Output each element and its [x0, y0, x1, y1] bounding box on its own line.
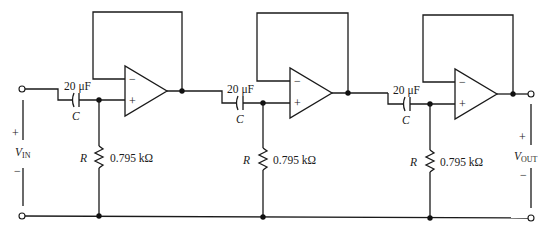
stage-2: 20 μF C R 0.795 kΩ − +: [218, 13, 388, 220]
capacitor-1-value: 20 μF: [64, 80, 91, 93]
resistor-3-icon: [426, 150, 434, 172]
input-terminal-bottom: [19, 213, 25, 219]
resistor-1-value: 0.795 kΩ: [110, 152, 153, 164]
output-terminal-top: [528, 91, 534, 97]
resistor-1-symbol: R: [79, 152, 87, 164]
input-minus-sign: −: [14, 164, 21, 178]
resistor-1-icon: [95, 146, 103, 168]
capacitor-2-value: 20 μF: [227, 83, 254, 96]
svg-text:−: −: [294, 74, 301, 88]
capacitor-3-icon: [404, 97, 411, 111]
svg-text:+: +: [129, 94, 136, 108]
input-plus-sign: +: [12, 126, 19, 140]
capacitor-3-symbol: C: [402, 114, 410, 126]
stage-3: 20 μF C R 0.795 kΩ − +: [388, 15, 528, 221]
input-voltage-label: VIN: [15, 146, 31, 160]
svg-text:+: +: [294, 96, 301, 110]
capacitor-1-symbol: C: [72, 110, 80, 122]
resistor-3-value: 0.795 kΩ: [440, 156, 483, 168]
output-minus-sign: −: [520, 168, 527, 182]
circuit-diagram: + VIN − 20 μF C R 0.795 kΩ − + 20 μF C: [0, 0, 550, 233]
capacitor-3-value: 20 μF: [393, 84, 420, 97]
output-plus-sign: +: [519, 130, 526, 144]
svg-text:+: +: [459, 97, 466, 111]
stage-1: 20 μF C R 0.795 kΩ − +: [25, 12, 218, 219]
resistor-2-symbol: R: [242, 154, 250, 166]
capacitor-2-symbol: C: [236, 113, 244, 125]
svg-text:−: −: [129, 72, 136, 86]
capacitor-1-icon: [73, 93, 80, 107]
resistor-2-value: 0.795 kΩ: [273, 154, 316, 166]
input-terminal-top: [19, 86, 25, 92]
capacitor-2-icon: [237, 96, 244, 110]
output-voltage-label: VOUT: [514, 150, 538, 164]
svg-text:−: −: [459, 75, 466, 89]
resistor-2-icon: [259, 148, 267, 170]
output-terminal-bottom: [528, 215, 534, 221]
resistor-3-symbol: R: [409, 156, 417, 168]
